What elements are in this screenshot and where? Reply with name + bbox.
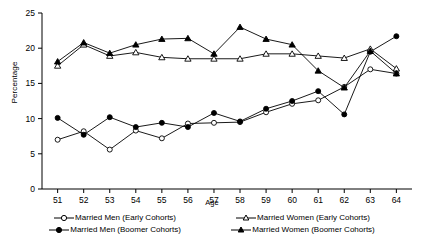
open-circle-marker-icon (54, 213, 74, 223)
data-point-marker (342, 112, 347, 117)
open-triangle-marker-icon (236, 213, 256, 223)
data-point-marker (316, 89, 321, 94)
chart-container: 05101520255152535455565758596061626364 P… (0, 0, 424, 247)
series-line (58, 69, 397, 149)
filled-circle-marker-icon (49, 225, 69, 235)
data-point-marker (159, 136, 164, 141)
data-point-marker (211, 110, 216, 115)
data-point-marker (263, 36, 269, 41)
chart-legend: Married Men (Early Cohorts) Married Wome… (0, 212, 424, 236)
legend-row-1: Married Men (Early Cohorts) Married Wome… (0, 212, 424, 224)
x-axis-title: Age (0, 198, 424, 207)
data-point-marker (368, 67, 373, 72)
data-point-marker (290, 99, 295, 104)
data-point-marker (133, 49, 139, 54)
data-point-marker (107, 147, 112, 152)
data-point-marker (316, 98, 321, 103)
data-point-marker (107, 115, 112, 120)
filled-triangle-marker-icon (231, 225, 251, 235)
legend-label: Married Women (Early Cohorts) (257, 212, 370, 224)
legend-label: Married Women (Boomer Cohorts) (252, 224, 375, 236)
y-tick-label: 25 (26, 8, 36, 18)
series-2 (55, 34, 399, 138)
y-axis-title: Percentage (10, 43, 19, 123)
data-point-marker (238, 119, 243, 124)
series-3 (54, 42, 399, 71)
legend-label: Married Men (Boomer Cohorts) (70, 224, 181, 236)
line-chart-plot: 05101520255152535455565758596061626364 (0, 0, 424, 247)
legend-item-married-women-early[interactable]: Married Women (Early Cohorts) (236, 212, 370, 224)
data-point-marker (159, 120, 164, 125)
legend-item-married-women-boomer[interactable]: Married Women (Boomer Cohorts) (231, 224, 375, 236)
y-tick-label: 5 (30, 149, 35, 159)
data-point-marker (211, 120, 216, 125)
legend-label: Married Men (Early Cohorts) (75, 212, 176, 224)
data-point-marker (81, 132, 86, 137)
data-point-marker (394, 34, 399, 39)
data-point-marker (55, 137, 60, 142)
y-tick-label: 0 (30, 184, 35, 194)
y-tick-label: 20 (26, 43, 36, 53)
data-point-marker (55, 115, 60, 120)
data-point-marker (54, 59, 60, 64)
series-1 (55, 67, 399, 152)
legend-item-married-men-early[interactable]: Married Men (Early Cohorts) (54, 212, 232, 224)
data-point-marker (133, 125, 138, 130)
y-tick-label: 15 (26, 78, 36, 88)
data-point-marker (185, 125, 190, 130)
data-point-marker (264, 106, 269, 111)
legend-item-married-men-boomer[interactable]: Married Men (Boomer Cohorts) (49, 224, 227, 236)
data-point-marker (81, 40, 87, 45)
legend-row-2: Married Men (Boomer Cohorts) Married Wom… (0, 224, 424, 236)
y-tick-label: 10 (26, 114, 36, 124)
data-point-marker (237, 24, 243, 29)
